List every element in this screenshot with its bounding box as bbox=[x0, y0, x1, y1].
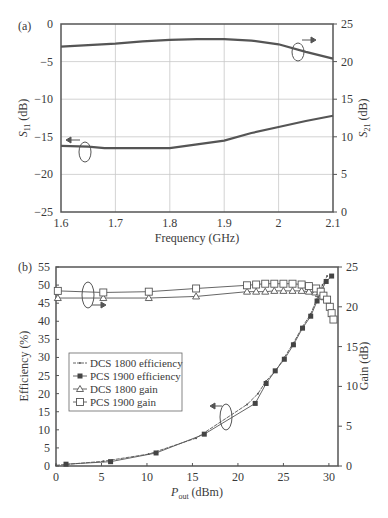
panel-b-right-axis-label: Gain (dB) bbox=[357, 342, 371, 390]
panel-a-label: (a) bbox=[18, 19, 31, 33]
y-tick-label: −15 bbox=[34, 130, 53, 144]
series-pcs-1900-gain bbox=[54, 280, 337, 323]
y-tick-label: −20 bbox=[34, 167, 53, 181]
s11-left-axis-indicator bbox=[66, 137, 91, 162]
panel-b-legend: DCS 1800 efficiencyPCS 1900 efficiencyDC… bbox=[69, 353, 183, 411]
y-tick-label: 40 bbox=[38, 314, 50, 328]
y2-tick-label: 20 bbox=[341, 55, 353, 69]
y2-tick-label: 25 bbox=[346, 260, 358, 274]
x-tick-label: 1.8 bbox=[162, 216, 177, 230]
y2-tick-label: 0 bbox=[346, 459, 352, 473]
x-tick-label: 1.6 bbox=[54, 216, 69, 230]
x-tick-label: 1.9 bbox=[217, 216, 232, 230]
y-tick-label: 30 bbox=[38, 350, 50, 364]
legend-item: PCS 1900 efficiency bbox=[73, 370, 181, 382]
y-tick-label: 5 bbox=[44, 441, 50, 455]
y2-tick-label: 15 bbox=[341, 92, 353, 106]
legend-label: DCS 1800 efficiency bbox=[90, 357, 183, 369]
x-tick-label: 2 bbox=[276, 216, 282, 230]
figure: (a) 0−5−10−15−20−25 2520151050 1.61.71.8… bbox=[0, 0, 388, 518]
y-tick-label: 20 bbox=[38, 387, 50, 401]
y-tick-label: −10 bbox=[34, 92, 53, 106]
y2-tick-label: 0 bbox=[341, 205, 347, 219]
y2-tick-label: 25 bbox=[341, 17, 353, 31]
panel-a-left-axis-label: S11 (dB) bbox=[16, 99, 32, 138]
legend-label: PCS 1900 gain bbox=[90, 396, 157, 408]
x-tick-label: 5 bbox=[98, 470, 104, 484]
y-tick-label: 0 bbox=[47, 17, 53, 31]
y-tick-label: 55 bbox=[38, 260, 50, 274]
x-tick-label: 0 bbox=[53, 470, 59, 484]
panel-b-x-axis-label: Pout (dBm) bbox=[170, 485, 223, 501]
panel-b-right-axis-ticks: 2520151050 bbox=[338, 260, 358, 473]
y-tick-label: 25 bbox=[38, 369, 50, 383]
legend-label: DCS 1800 gain bbox=[90, 383, 158, 395]
x-tick-label: 30 bbox=[323, 470, 335, 484]
y2-tick-label: 5 bbox=[341, 167, 347, 181]
y-tick-label: 50 bbox=[38, 278, 50, 292]
panel-a-x-axis-label: Frequency (GHz) bbox=[155, 231, 239, 245]
y-tick-label: 10 bbox=[38, 423, 50, 437]
panel-a-right-axis-label: S21 (dB) bbox=[356, 99, 372, 138]
panel-a-x-axis-ticks: 1.61.71.81.922.1 bbox=[54, 216, 341, 230]
y2-tick-label: 20 bbox=[346, 300, 358, 314]
panel-b-left-axis-label: Efficiency (%) bbox=[17, 331, 31, 402]
series-dcs-1800-gain bbox=[54, 287, 328, 300]
panel-a-s-parameters-chart: (a) 0−5−10−15−20−25 2520151050 1.61.71.8… bbox=[16, 17, 372, 245]
y2-tick-label: 5 bbox=[346, 419, 352, 433]
y2-tick-label: 10 bbox=[341, 130, 353, 144]
y-tick-label: 0 bbox=[44, 459, 50, 473]
y-tick-label: −25 bbox=[34, 205, 53, 219]
panel-b-label: (b) bbox=[18, 260, 32, 274]
x-tick-label: 1.7 bbox=[108, 216, 123, 230]
x-tick-label: 10 bbox=[141, 470, 153, 484]
y-tick-label: 45 bbox=[38, 296, 50, 310]
legend-label: PCS 1900 efficiency bbox=[90, 370, 181, 382]
legend-item: DCS 1800 efficiency bbox=[73, 357, 183, 369]
y-tick-label: 15 bbox=[38, 405, 50, 419]
x-tick-label: 20 bbox=[232, 470, 244, 484]
x-tick-label: 25 bbox=[277, 470, 289, 484]
x-tick-label: 15 bbox=[186, 470, 198, 484]
panel-a-right-axis-ticks: 2520151050 bbox=[333, 17, 353, 219]
x-tick-label: 2.1 bbox=[326, 216, 341, 230]
y-tick-label: 35 bbox=[38, 332, 50, 346]
series-line-s11 bbox=[61, 116, 333, 148]
panel-a-left-axis-ticks: 0−5−10−15−20−25 bbox=[34, 17, 53, 219]
y-tick-label: −5 bbox=[40, 55, 53, 69]
panel-b-efficiency-gain-chart: (b) 5550454035302520151050 2520151050 05… bbox=[17, 260, 371, 501]
